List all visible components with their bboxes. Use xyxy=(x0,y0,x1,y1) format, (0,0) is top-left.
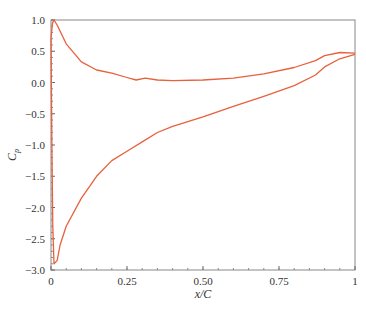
y-tick-label: −1.5 xyxy=(25,170,45,182)
y-tick-label: −2.0 xyxy=(25,202,45,214)
y-tick-label: −1.0 xyxy=(25,139,45,151)
x-tick-label: 0 xyxy=(48,275,54,287)
y-tick-label: 1.0 xyxy=(31,14,45,26)
plot-frame xyxy=(51,20,355,270)
y-tick-label: 0.5 xyxy=(31,45,45,57)
data-series xyxy=(51,20,355,264)
y-axis-label: Cp xyxy=(5,149,21,161)
x-tick-label: 0.50 xyxy=(193,275,213,287)
x-axis-label: x/C xyxy=(194,287,213,301)
cp-chart: 1.00.50.0−0.5−1.0−1.5−2.0−2.5−3.000.250.… xyxy=(0,0,366,313)
series-line-upper-surface xyxy=(51,20,355,81)
x-tick-label: 0.75 xyxy=(269,275,289,287)
y-tick-label: −2.5 xyxy=(25,233,45,245)
y-tick-label: 0.0 xyxy=(31,77,45,89)
x-tick-label: 1 xyxy=(352,275,358,287)
y-tick-label: −0.5 xyxy=(25,108,45,120)
series-line-lower-surface xyxy=(51,39,355,264)
y-tick-label: −3.0 xyxy=(25,264,45,276)
x-tick-label: 0.25 xyxy=(117,275,137,287)
